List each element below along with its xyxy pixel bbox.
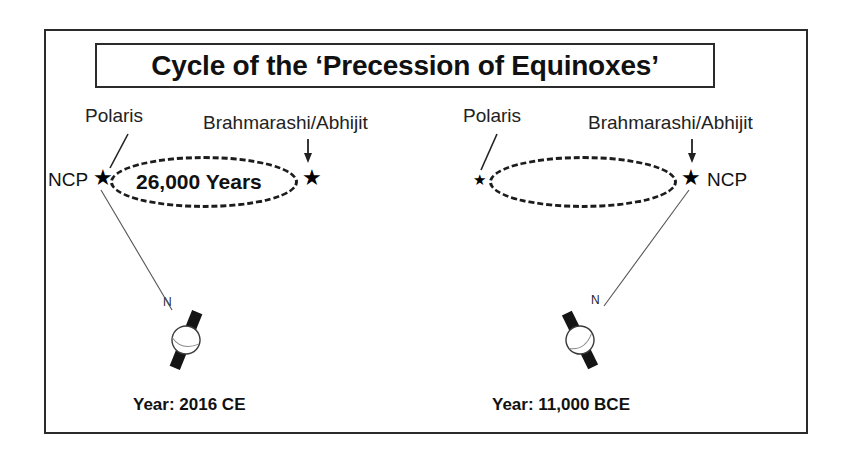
right-brahmarashi-label: Brahmarashi/Abhijit bbox=[588, 113, 753, 132]
left-cycle-duration-label: 26,000 Years bbox=[136, 171, 262, 192]
right-north-pole-label: N bbox=[591, 294, 600, 306]
left-ncp-label: NCP bbox=[48, 170, 88, 189]
right-panel-caption: Year: 11,000 BCE bbox=[492, 396, 630, 413]
figure-border bbox=[44, 29, 808, 434]
right-ncp-label: NCP bbox=[707, 170, 747, 189]
left-abhijit-star-icon: ★ bbox=[302, 167, 322, 189]
left-polaris-label: Polaris bbox=[85, 106, 143, 125]
page-title: Cycle of the ‘Precession of Equinoxes’ bbox=[151, 52, 658, 80]
figure-canvas: Cycle of the ‘Precession of Equinoxes’ P… bbox=[0, 0, 846, 459]
left-north-pole-label: N bbox=[163, 296, 172, 308]
right-precession-ellipse bbox=[489, 156, 677, 208]
left-panel-caption: Year: 2016 CE bbox=[133, 396, 245, 413]
right-ncp-star-icon: ★ bbox=[681, 167, 701, 189]
right-polaris-star-icon: ★ bbox=[473, 172, 486, 187]
title-box: Cycle of the ‘Precession of Equinoxes’ bbox=[95, 43, 715, 88]
left-brahmarashi-label: Brahmarashi/Abhijit bbox=[203, 113, 368, 132]
right-polaris-label: Polaris bbox=[463, 106, 521, 125]
